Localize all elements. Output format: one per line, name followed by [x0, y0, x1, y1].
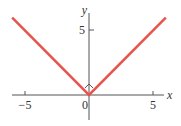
y-axis-label: y: [81, 3, 88, 17]
x-tick-label-5: 5: [150, 98, 156, 112]
x-tick-label-0: 0: [82, 98, 88, 112]
y-tick-label-5: 5: [79, 23, 85, 37]
x-tick-label-neg5: −5: [19, 98, 32, 112]
x-axis-label: x: [166, 88, 173, 102]
chart: −5 0 5 5 x y: [0, 0, 181, 126]
